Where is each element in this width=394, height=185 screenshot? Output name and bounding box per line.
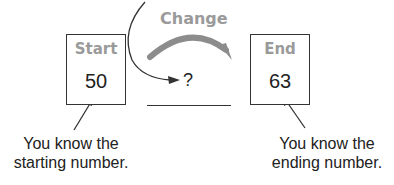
change-arc-arrowhead-icon (219, 43, 232, 60)
start-box: Start 50 (66, 34, 126, 105)
unknown-change: ? (183, 70, 193, 91)
start-label: Start (67, 40, 125, 58)
end-box: End 63 (250, 34, 310, 105)
change-arc-icon (150, 38, 226, 57)
end-label: End (251, 40, 309, 58)
start-value: 50 (67, 70, 125, 93)
end-value: 63 (251, 70, 309, 93)
answer-blank-line (147, 105, 231, 106)
curved-arrowhead-icon (168, 76, 180, 84)
start-caption: You know the starting number. (6, 134, 136, 172)
end-caption: You know the ending number. (262, 134, 392, 172)
start-pointer-line (74, 102, 91, 130)
end-pointer-line (287, 102, 305, 128)
change-label: Change (160, 9, 228, 28)
